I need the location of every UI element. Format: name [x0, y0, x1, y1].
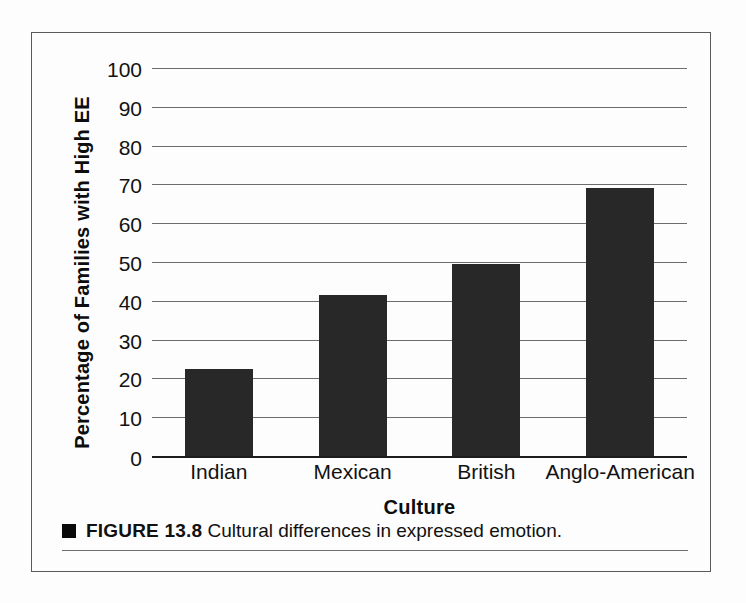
y-tick-label-60: 60 — [119, 214, 142, 235]
y-axis-title: Percentage of Families with High EE — [71, 73, 94, 473]
y-tick-label-50: 50 — [119, 253, 142, 274]
y-tick-label-80: 80 — [119, 136, 142, 157]
caption-description: Cultural differences in expressed emotio… — [208, 520, 563, 541]
x-axis-tick-labels: IndianMexicanBritishAnglo-American — [152, 461, 687, 491]
x-axis-baseline: 0 — [152, 456, 687, 458]
y-tick-label-100: 100 — [107, 59, 142, 80]
figure-frame: Percentage of Families with High EE 0102… — [31, 32, 711, 572]
figure-caption: FIGURE 13.8 Cultural differences in expr… — [62, 520, 690, 542]
x-tick-label-mexican: Mexican — [314, 461, 392, 482]
bar-mexican — [319, 295, 387, 456]
y-tick-label-30: 30 — [119, 330, 142, 351]
x-tick-label-british: British — [457, 461, 515, 482]
bar-anglo-american — [586, 188, 654, 456]
bar-indian — [185, 369, 253, 456]
caption-text-line: FIGURE 13.8 Cultural differences in expr… — [86, 520, 562, 542]
y-tick-label-10: 10 — [119, 408, 142, 429]
black-square-icon — [62, 524, 76, 538]
caption-figure-number: FIGURE 13.8 — [86, 520, 202, 541]
y-tick-label-0: 0 — [130, 448, 142, 469]
y-tick-label-40: 40 — [119, 291, 142, 312]
x-axis-title: Culture — [152, 496, 687, 519]
y-tick-label-70: 70 — [119, 175, 142, 196]
caption-divider — [62, 550, 688, 551]
plot-area: 0102030405060708090100 — [152, 68, 687, 456]
bars-layer — [152, 68, 687, 456]
y-tick-label-90: 90 — [119, 97, 142, 118]
y-tick-label-20: 20 — [119, 369, 142, 390]
x-tick-label-indian: Indian — [190, 461, 247, 482]
bar-british — [452, 264, 520, 456]
x-tick-label-anglo-american: Anglo-American — [545, 461, 694, 482]
